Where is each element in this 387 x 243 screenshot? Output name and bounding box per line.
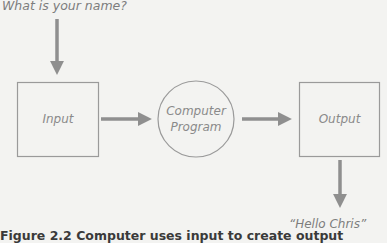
prompt-label: What is your name? <box>2 0 127 13</box>
input-node-label: Input <box>17 111 99 127</box>
program-node-label-line1: Computer <box>158 103 234 119</box>
output-node-label: Output <box>299 111 380 127</box>
figure-caption: Figure 2.2 Computer uses input to create… <box>0 228 343 243</box>
program-node-label-line2: Program <box>158 119 234 135</box>
